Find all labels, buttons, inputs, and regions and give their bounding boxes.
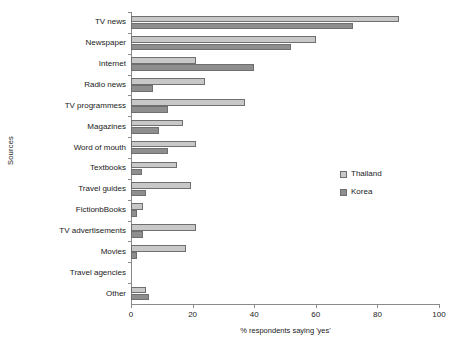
category-label: Newspaper bbox=[86, 39, 126, 47]
bar-group: Travel agencies bbox=[131, 262, 439, 283]
y-axis-tick bbox=[128, 137, 131, 138]
x-axis-title: % respondents saying 'yes' bbox=[131, 326, 440, 335]
y-axis-tick bbox=[128, 200, 131, 201]
legend-item: Thailand bbox=[340, 170, 382, 178]
x-axis-line bbox=[131, 304, 440, 305]
bar-group: TV news bbox=[131, 12, 439, 33]
y-axis-title: Sources bbox=[0, 0, 20, 300]
bar-korea bbox=[131, 23, 353, 30]
bar-group: Word of mouth bbox=[131, 137, 439, 158]
bar-korea bbox=[131, 127, 159, 134]
y-axis-title-text: Sources bbox=[6, 136, 15, 165]
category-label: TV programmess bbox=[65, 102, 126, 110]
y-axis-tick bbox=[128, 241, 131, 242]
bar-thailand bbox=[131, 36, 316, 43]
bar-korea bbox=[131, 210, 137, 217]
y-axis-tick bbox=[128, 33, 131, 34]
bar-korea bbox=[131, 190, 146, 197]
bar-thailand bbox=[131, 162, 177, 169]
horizontal-bar-chart: Sources TV newsNewspaperInternetRadio ne… bbox=[0, 0, 456, 347]
category-label: Radio news bbox=[84, 81, 126, 89]
bar-thailand bbox=[131, 78, 205, 85]
category-label: TV news bbox=[95, 18, 126, 26]
bar-group: Magazines bbox=[131, 116, 439, 137]
bar-korea bbox=[131, 252, 137, 259]
bar-group: TV advertisements bbox=[131, 221, 439, 242]
bar-thailand bbox=[131, 16, 399, 23]
bar-group: Movies bbox=[131, 241, 439, 262]
category-label: TV advertisements bbox=[59, 227, 126, 235]
x-axis-tick-label: 80 bbox=[373, 310, 382, 319]
bar-group: Travel guides bbox=[131, 179, 439, 200]
x-axis-tick-label: 20 bbox=[188, 310, 197, 319]
legend-label: Thailand bbox=[351, 170, 382, 178]
bar-group: Newspaper bbox=[131, 33, 439, 54]
bar-thailand bbox=[131, 224, 196, 231]
y-axis-tick bbox=[128, 283, 131, 284]
bar-thailand bbox=[131, 203, 143, 210]
bar-korea bbox=[131, 169, 142, 176]
bar-korea bbox=[131, 106, 168, 113]
x-axis-tick-label: 100 bbox=[432, 310, 445, 319]
x-axis-tick-label: 40 bbox=[250, 310, 259, 319]
legend-swatch-thailand bbox=[340, 171, 347, 178]
bar-thailand bbox=[131, 57, 196, 64]
bar-group: Internet bbox=[131, 54, 439, 75]
bar-group: Radio news bbox=[131, 75, 439, 96]
legend-item: Korea bbox=[340, 188, 382, 196]
bar-group: FictionbBooks bbox=[131, 200, 439, 221]
bar-thailand bbox=[131, 287, 146, 294]
legend-swatch-korea bbox=[340, 189, 347, 196]
y-axis-tick bbox=[128, 116, 131, 117]
bar-thailand bbox=[131, 182, 191, 189]
x-axis-tick bbox=[254, 304, 255, 308]
category-label: Magazines bbox=[87, 123, 126, 131]
category-label: FictionbBooks bbox=[76, 206, 126, 214]
bar-korea bbox=[131, 294, 149, 301]
bar-korea bbox=[131, 64, 254, 71]
category-label: Word of mouth bbox=[74, 144, 126, 152]
bar-group: Textbooks bbox=[131, 158, 439, 179]
y-axis-tick bbox=[128, 262, 131, 263]
y-axis-tick bbox=[128, 221, 131, 222]
category-label: Other bbox=[106, 290, 126, 298]
bar-korea bbox=[131, 231, 143, 238]
y-axis-tick bbox=[128, 95, 131, 96]
category-label: Internet bbox=[99, 60, 126, 68]
y-axis-tick bbox=[128, 54, 131, 55]
y-axis-tick bbox=[128, 179, 131, 180]
category-label: Movies bbox=[101, 248, 126, 256]
y-axis-tick bbox=[128, 12, 131, 13]
legend-label: Korea bbox=[351, 188, 372, 196]
bar-group: TV programmess bbox=[131, 95, 439, 116]
legend: ThailandKorea bbox=[340, 170, 382, 206]
category-label: Travel agencies bbox=[70, 269, 126, 277]
x-axis-tick bbox=[377, 304, 378, 308]
y-axis-tick bbox=[128, 158, 131, 159]
bar-korea bbox=[131, 85, 153, 92]
x-axis-tick bbox=[193, 304, 194, 308]
x-axis-tick-label: 60 bbox=[311, 310, 320, 319]
bar-group: Other bbox=[131, 283, 439, 304]
bar-thailand bbox=[131, 141, 196, 148]
bar-thailand bbox=[131, 245, 186, 252]
bar-korea bbox=[131, 148, 168, 155]
category-label: Travel guides bbox=[78, 185, 126, 193]
x-axis-tick bbox=[131, 304, 132, 308]
plot-area: TV newsNewspaperInternetRadio newsTV pro… bbox=[131, 12, 439, 304]
x-axis-tick bbox=[439, 304, 440, 308]
bar-thailand bbox=[131, 99, 245, 106]
y-axis-tick bbox=[128, 75, 131, 76]
x-axis-tick-label: 0 bbox=[129, 310, 133, 319]
category-label: Textbooks bbox=[90, 164, 126, 172]
bar-thailand bbox=[131, 120, 183, 127]
bar-korea bbox=[131, 44, 291, 51]
x-axis-tick bbox=[316, 304, 317, 308]
